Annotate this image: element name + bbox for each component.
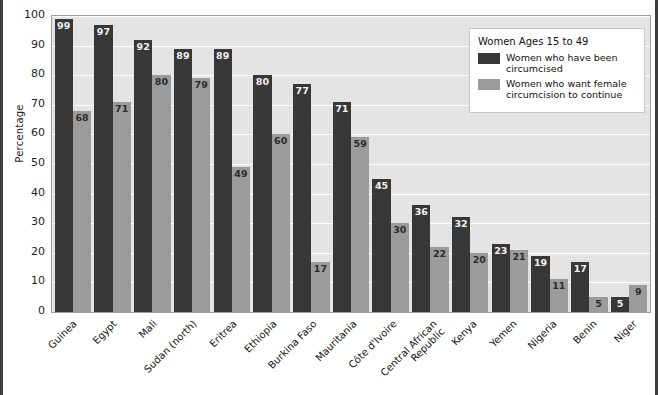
bar-value-label: 71 xyxy=(113,104,131,114)
bar-group: 9771 xyxy=(93,16,133,312)
bar[interactable]: 11 xyxy=(550,279,568,312)
bar-value-label: 21 xyxy=(510,252,528,262)
bar[interactable]: 45 xyxy=(372,179,390,312)
bar[interactable]: 60 xyxy=(272,134,290,312)
bar[interactable]: 77 xyxy=(293,84,311,312)
bar-value-label: 89 xyxy=(174,51,192,61)
bar-value-label: 22 xyxy=(430,249,448,259)
y-tick-label: 100 xyxy=(3,8,45,21)
bar-group: 8060 xyxy=(252,16,292,312)
bar-value-label: 20 xyxy=(470,255,488,265)
bar-value-label: 79 xyxy=(192,80,210,90)
x-tick-label: Kenya xyxy=(449,318,478,347)
x-tick-label: Benin xyxy=(571,318,599,346)
x-label-cell: Central AfricanRepublic xyxy=(411,316,451,394)
bar[interactable]: 30 xyxy=(391,223,409,312)
bar[interactable]: 17 xyxy=(571,262,589,312)
legend-entry[interactable]: Women who have beencircumcised xyxy=(478,52,636,74)
bar-value-label: 59 xyxy=(351,139,369,149)
chart-legend: Women Ages 15 to 49 Women who have beenc… xyxy=(469,28,645,113)
bar[interactable]: 80 xyxy=(152,75,170,312)
y-tick-label: 70 xyxy=(3,97,45,110)
bar-value-label: 36 xyxy=(412,207,430,217)
bar-value-label: 80 xyxy=(253,77,271,87)
legend-swatch-light xyxy=(478,79,500,90)
chart-frame: Percentage 1009080706050403020100 996897… xyxy=(0,0,658,395)
bar[interactable]: 71 xyxy=(333,102,351,312)
bar[interactable]: 20 xyxy=(470,253,488,312)
y-tick-label: 60 xyxy=(3,126,45,139)
bar-value-label: 45 xyxy=(372,181,390,191)
bar-value-label: 92 xyxy=(134,42,152,52)
x-axis-tick-labels: GuineaEgyptMaliSudan (north)EritreaEthio… xyxy=(51,316,651,394)
bar-group: 9280 xyxy=(132,16,172,312)
legend-entries: Women who have beencircumcisedWomen who … xyxy=(478,52,636,100)
bar-value-label: 80 xyxy=(152,77,170,87)
y-tick-label: 10 xyxy=(3,274,45,287)
bar[interactable]: 19 xyxy=(531,256,549,312)
bar[interactable]: 49 xyxy=(232,167,250,312)
x-tick-label: Nigeria xyxy=(526,318,559,351)
x-tick-label: Niger xyxy=(612,318,639,345)
y-tick-label: 0 xyxy=(3,304,45,317)
bar[interactable]: 92 xyxy=(134,40,152,312)
x-label-cell: Yemen xyxy=(491,316,531,394)
x-label-cell: Egypt xyxy=(91,316,131,394)
bar[interactable]: 59 xyxy=(351,137,369,312)
y-tick-label: 40 xyxy=(3,186,45,199)
x-tick-label: Eritrea xyxy=(207,318,238,349)
bar[interactable]: 89 xyxy=(214,49,232,312)
bar[interactable]: 17 xyxy=(311,262,329,312)
bar-group: 9968 xyxy=(53,16,93,312)
bar[interactable]: 23 xyxy=(492,244,510,312)
y-tick-label: 30 xyxy=(3,215,45,228)
bar[interactable]: 97 xyxy=(94,25,112,312)
bar[interactable]: 80 xyxy=(253,75,271,312)
bar[interactable]: 89 xyxy=(174,49,192,312)
x-tick-label: Yemen xyxy=(488,318,519,349)
bar-group: 7159 xyxy=(331,16,371,312)
bar[interactable]: 32 xyxy=(452,217,470,312)
bar[interactable]: 68 xyxy=(73,111,91,312)
bar-value-label: 19 xyxy=(531,258,549,268)
legend-title: Women Ages 15 to 49 xyxy=(478,36,636,47)
x-tick-label: Guinea xyxy=(46,318,79,351)
y-tick-label: 90 xyxy=(3,38,45,51)
bar-value-label: 11 xyxy=(550,281,568,291)
bar-value-label: 32 xyxy=(452,219,470,229)
x-tick-label: Mali xyxy=(137,318,159,340)
bar-group: 7717 xyxy=(291,16,331,312)
bar-value-label: 30 xyxy=(391,225,409,235)
bar-value-label: 23 xyxy=(492,246,510,256)
bar-value-label: 77 xyxy=(293,86,311,96)
bar-value-label: 60 xyxy=(272,136,290,146)
bar-value-label: 71 xyxy=(333,104,351,114)
bar[interactable]: 79 xyxy=(192,78,210,312)
y-tick-label: 20 xyxy=(3,245,45,258)
bar[interactable]: 5 xyxy=(589,297,607,312)
x-label-cell: Guinea xyxy=(51,316,91,394)
bar[interactable]: 71 xyxy=(113,102,131,312)
bar[interactable]: 5 xyxy=(611,297,629,312)
bar-value-label: 5 xyxy=(611,299,629,309)
bar-value-label: 68 xyxy=(73,113,91,123)
legend-entry[interactable]: Women who want femalecircumcision to con… xyxy=(478,78,636,100)
x-label-cell: Niger xyxy=(611,316,651,394)
x-label-cell: Kenya xyxy=(451,316,491,394)
bar[interactable]: 22 xyxy=(430,247,448,312)
bar-value-label: 97 xyxy=(94,27,112,37)
bar[interactable]: 99 xyxy=(55,19,73,312)
bar-value-label: 5 xyxy=(589,299,607,309)
bar[interactable]: 21 xyxy=(510,250,528,312)
bar-value-label: 99 xyxy=(55,21,73,31)
y-tick-label: 50 xyxy=(3,156,45,169)
bar[interactable]: 9 xyxy=(629,285,647,312)
bar-group: 3622 xyxy=(411,16,451,312)
bar-group: 8949 xyxy=(212,16,252,312)
bar-value-label: 89 xyxy=(214,51,232,61)
bar-value-label: 49 xyxy=(232,169,250,179)
x-label-cell: Eritrea xyxy=(211,316,251,394)
x-label-cell: Sudan (north) xyxy=(171,316,211,394)
bar-value-label: 17 xyxy=(311,264,329,274)
bar[interactable]: 36 xyxy=(412,205,430,312)
